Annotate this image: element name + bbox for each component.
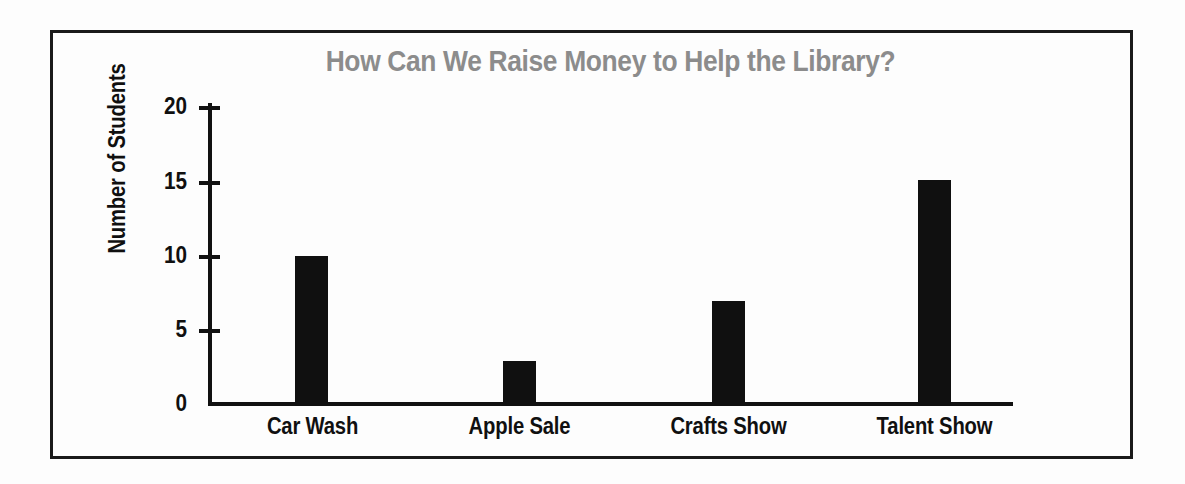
y-tick-label-0: 0 [133,392,187,415]
y-tick-label-15-wrap: 15 [122,170,187,194]
chart-title: How Can We Raise Money to Help the Libra… [256,45,964,77]
chart-page: How Can We Raise Money to Help the Libra… [0,0,1185,484]
y-tick-label-10: 10 [133,244,187,267]
bar-car-wash [295,256,328,407]
y-tick-label-10-wrap: 10 [122,244,187,268]
bar-apple-sale [503,361,536,406]
x-category-label-apple-sale: Apple Sale [451,414,587,439]
x-category-label-car-wash: Car Wash [244,414,380,439]
y-tick-label-5-wrap: 5 [122,318,187,342]
y-axis-label: Number of Students [104,53,131,264]
y-tick-label-20-wrap: 20 [122,95,187,119]
x-category-label-talent-show: Talent Show [866,414,1002,439]
plot-area [208,105,1013,406]
bar-talent-show [918,180,951,406]
y-tick-label-5: 5 [133,318,187,341]
x-category-label-crafts-show: Crafts Show [660,414,796,439]
y-tick-label-15: 15 [133,170,187,193]
bar-crafts-show [712,301,745,406]
y-tick-label-20: 20 [133,95,187,118]
y-tick-label-0-wrap: 0 [122,392,187,416]
